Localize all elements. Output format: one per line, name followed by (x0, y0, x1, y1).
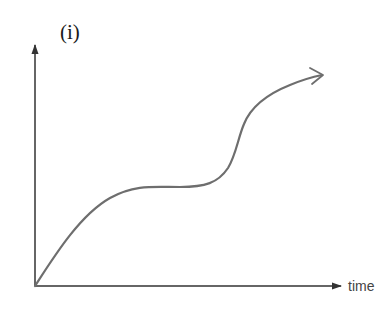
x-axis-label: time (348, 278, 375, 294)
panel-label: (i) (60, 20, 80, 44)
growth-curve (35, 75, 322, 286)
growth-curve-diagram: (i) time (0, 0, 388, 317)
